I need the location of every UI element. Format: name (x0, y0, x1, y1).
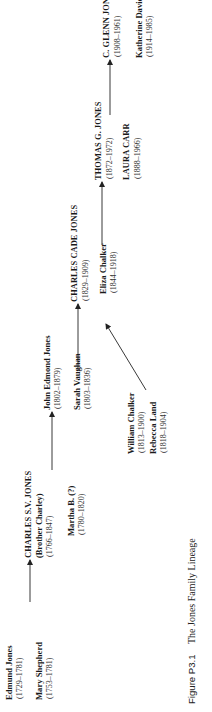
lineage-arrows (0, 0, 212, 712)
family-lineage-diagram: Edmund Jones (1729–1781) Mary Shepherd (… (0, 0, 212, 712)
figure-label: Figure P3.1 (186, 654, 197, 704)
arrow-chalker-to-eliza (106, 324, 146, 390)
figure-title: The Jones Family Lineage (186, 538, 197, 644)
figure-caption: Figure P3.1 The Jones Family Lineage (186, 538, 197, 704)
